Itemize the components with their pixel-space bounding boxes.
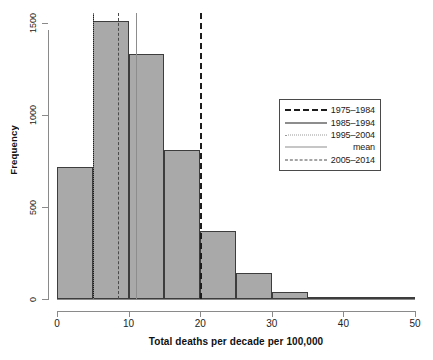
x-tick <box>57 311 58 317</box>
reference-line-1995-2004 <box>93 13 94 299</box>
legend-line-sample-icon <box>284 154 328 166</box>
plot-baseline <box>57 299 415 300</box>
histogram-bar <box>236 273 272 299</box>
y-tick-label: 1000 <box>28 99 38 131</box>
legend: 1975–19841985–19941995–2004mean2005–2014 <box>279 99 381 171</box>
reference-line-mean <box>136 13 137 299</box>
x-tick-label: 50 <box>400 318 430 329</box>
y-tick-label: 1500 <box>28 7 38 39</box>
y-tick <box>42 207 48 208</box>
legend-item-label: 1985–1994 <box>328 118 375 128</box>
histogram-figure: Frequency 050010001500 01020304050 Total… <box>0 0 433 360</box>
legend-item: 1975–1984 <box>284 104 375 116</box>
legend-line-sample-icon <box>284 104 328 116</box>
x-tick-label: 10 <box>114 318 144 329</box>
y-tick-label: 0 <box>28 283 38 315</box>
y-axis-title: Frequency <box>8 0 19 299</box>
x-tick-label: 20 <box>185 318 215 329</box>
histogram-bar <box>200 231 236 299</box>
legend-item-label: 2005–2014 <box>328 155 375 165</box>
x-axis-title: Total deaths per decade per 100,000 <box>57 336 415 347</box>
legend-item: 1985–1994 <box>284 116 375 128</box>
histogram-bar <box>57 167 93 299</box>
x-axis-line <box>57 311 415 312</box>
y-tick <box>42 115 48 116</box>
x-tick <box>200 311 201 317</box>
legend-line-sample-icon <box>284 141 328 153</box>
histogram-bar <box>343 297 379 299</box>
legend-item-label: mean <box>328 142 375 152</box>
legend-item: 1995–2004 <box>284 129 375 141</box>
histogram-bar <box>129 54 165 299</box>
y-tick <box>42 299 48 300</box>
histogram-bar <box>93 21 129 299</box>
x-tick <box>129 311 130 317</box>
x-tick <box>343 311 344 317</box>
legend-item: 2005–2014 <box>284 154 375 166</box>
x-tick <box>415 311 416 317</box>
x-tick-label: 40 <box>328 318 358 329</box>
histogram-bar <box>308 297 344 299</box>
legend-item-label: 1975–1984 <box>328 105 375 115</box>
legend-line-sample-icon <box>284 129 328 141</box>
y-tick <box>42 23 48 24</box>
x-tick-label: 0 <box>42 318 72 329</box>
legend-item: mean <box>284 141 375 153</box>
reference-line-1975-1984 <box>200 13 202 299</box>
y-axis-line <box>48 30 49 300</box>
histogram-bar <box>379 297 415 299</box>
x-tick-label: 30 <box>257 318 287 329</box>
y-tick-label: 500 <box>28 191 38 223</box>
histogram-bar <box>164 150 200 299</box>
legend-item-label: 1995–2004 <box>328 130 375 140</box>
reference-line-2005-2014 <box>118 13 119 299</box>
y-axis-title-text: Frequency <box>8 125 19 175</box>
x-tick <box>272 311 273 317</box>
legend-line-sample-icon <box>284 117 328 129</box>
histogram-bar <box>272 292 308 299</box>
